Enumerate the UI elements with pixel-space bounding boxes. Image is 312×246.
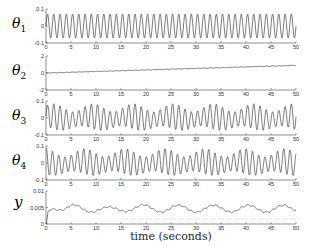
x-tick-label: 5 — [69, 136, 72, 142]
x-tick-label: 40 — [243, 225, 249, 231]
x-tick-label: 40 — [243, 44, 249, 50]
x-tick-label: 35 — [218, 225, 224, 231]
x-tick-label: 30 — [193, 44, 199, 50]
x-tick-label: 50 — [293, 225, 299, 231]
panel-y: 0510152025303540455000.0050.01 — [30, 188, 299, 231]
x-tick-label: 10 — [93, 181, 99, 187]
x-tick-label: 0 — [44, 136, 47, 142]
figure: 05101520253035404550-0.100.1051015202530… — [0, 0, 312, 246]
x-tick-label: 10 — [93, 136, 99, 142]
y-label: y — [14, 193, 22, 211]
x-tick-label: 20 — [143, 91, 149, 97]
y-tick-label: -0.1 — [35, 177, 44, 183]
series-line-theta3 — [46, 104, 296, 131]
axes — [46, 56, 296, 90]
x-tick-label: 35 — [218, 91, 224, 97]
panel-theta2: 05101520253035404550-202 — [39, 53, 299, 97]
y-tick-label: 0.1 — [36, 98, 44, 104]
x-tick-label: 35 — [218, 181, 224, 187]
theta3-label: θ3 — [12, 107, 26, 126]
x-tick-label: 45 — [268, 44, 274, 50]
theta2-label: θ2 — [12, 62, 26, 81]
y-tick-label: -0.1 — [35, 40, 44, 46]
x-tick-label: 5 — [69, 181, 72, 187]
x-tick-label: 0 — [44, 44, 47, 50]
x-tick-label: 20 — [143, 181, 149, 187]
y-tick-label: 0 — [41, 70, 44, 76]
x-tick-label: 25 — [168, 181, 174, 187]
series-line-theta1 — [46, 14, 296, 38]
x-tick-label: 10 — [93, 225, 99, 231]
series-line-y — [46, 204, 296, 224]
x-tick-label: 0 — [44, 181, 47, 187]
y-tick-label: 0.1 — [36, 6, 44, 12]
x-tick-label: 25 — [168, 91, 174, 97]
series-line-theta4 — [46, 149, 296, 176]
x-tick-label: 20 — [143, 44, 149, 50]
panel-theta4: 05101520253035404550-0.100.1 — [35, 143, 300, 187]
theta4-label: θ4 — [12, 152, 26, 171]
x-tick-label: 35 — [218, 136, 224, 142]
theta1-label: θ1 — [12, 15, 26, 34]
panel-theta1: 05101520253035404550-0.100.1 — [35, 6, 300, 50]
y-tick-label: 0 — [41, 160, 44, 166]
x-tick-label: 20 — [143, 136, 149, 142]
x-tick-label: 10 — [93, 91, 99, 97]
x-tick-label: 45 — [268, 181, 274, 187]
x-tick-label: 15 — [118, 136, 124, 142]
x-tick-label: 15 — [118, 225, 124, 231]
y-tick-label: 0.1 — [36, 143, 44, 149]
x-tick-label: 45 — [268, 136, 274, 142]
x-tick-label: 10 — [93, 44, 99, 50]
x-tick-label: 25 — [168, 136, 174, 142]
x-tick-label: 15 — [118, 44, 124, 50]
x-tick-label: 45 — [268, 91, 274, 97]
x-tick-label: 15 — [118, 91, 124, 97]
x-tick-label: 5 — [69, 225, 72, 231]
panel-theta3: 05101520253035404550-0.100.1 — [35, 98, 300, 142]
x-tick-label: 35 — [218, 44, 224, 50]
x-tick-label: 45 — [268, 225, 274, 231]
x-tick-label: 40 — [243, 136, 249, 142]
x-tick-label: 15 — [118, 181, 124, 187]
x-tick-label: 0 — [44, 225, 47, 231]
y-tick-label: 0 — [41, 221, 44, 227]
x-tick-label: 30 — [193, 136, 199, 142]
x-tick-label: 40 — [243, 91, 249, 97]
y-tick-label: 2 — [41, 53, 44, 59]
x-tick-label: 40 — [243, 181, 249, 187]
x-tick-label: 25 — [168, 44, 174, 50]
y-tick-label: 0.01 — [33, 188, 44, 194]
x-tick-label: 5 — [69, 44, 72, 50]
x-tick-label: 50 — [293, 91, 299, 97]
x-tick-label: 30 — [193, 181, 199, 187]
y-tick-label: -2 — [39, 87, 44, 93]
series-line-theta2 — [46, 65, 296, 73]
x-tick-label: 30 — [193, 91, 199, 97]
x-tick-label: 5 — [69, 91, 72, 97]
y-tick-label: 0.005 — [30, 205, 44, 211]
x-tick-label: 0 — [44, 91, 47, 97]
y-tick-label: 0 — [41, 115, 44, 121]
x-axis-label: time (seconds) — [130, 230, 212, 243]
x-tick-label: 50 — [293, 181, 299, 187]
y-tick-label: -0.1 — [35, 132, 44, 138]
y-tick-label: 0 — [41, 23, 44, 29]
x-tick-label: 50 — [293, 44, 299, 50]
x-tick-label: 50 — [293, 136, 299, 142]
